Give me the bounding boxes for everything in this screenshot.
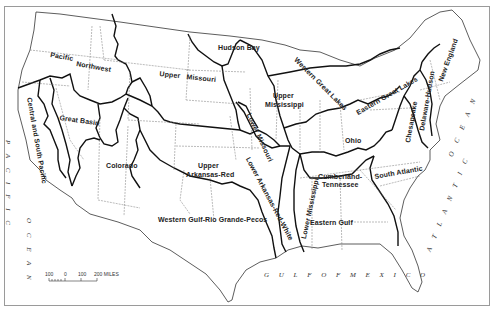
label-upper-arkansas-red-1: Upper (198, 162, 219, 169)
scale-bar (49, 278, 97, 281)
scale-tick-0: 0 (64, 271, 67, 277)
scale-tick-100: 100 (78, 271, 86, 277)
label-upper-arkansas-red-2: Arkansas-Red (186, 171, 234, 178)
label-cumberland-tennessee-2: Tennessee (322, 181, 359, 188)
label-gulf-of-mexico: G U L F O F M E X I C O (264, 271, 429, 279)
label-upper-mississippi-2: Mississippi (265, 101, 304, 108)
label-pacific-ocean: O C E A N (25, 218, 33, 284)
label-eastern-gulf: Eastern Gulf (310, 219, 353, 226)
label-upper-mississippi-1: Upper (273, 92, 294, 99)
label-ohio: Ohio (345, 137, 361, 144)
label-western-gulf: Western Gulf-Rio Grande-Pecos (158, 216, 267, 223)
scale-tick-100-left: 100 (45, 271, 53, 277)
scale-tick-200-miles: 200 MILES (94, 271, 119, 277)
label-pacific: P A C I F I C (4, 140, 12, 229)
label-hudson-bay: Hudson Bay (218, 44, 260, 51)
label-cumberland-tennessee-1: Cumberland- (318, 173, 362, 180)
label-colorado: Colorado (106, 162, 138, 169)
